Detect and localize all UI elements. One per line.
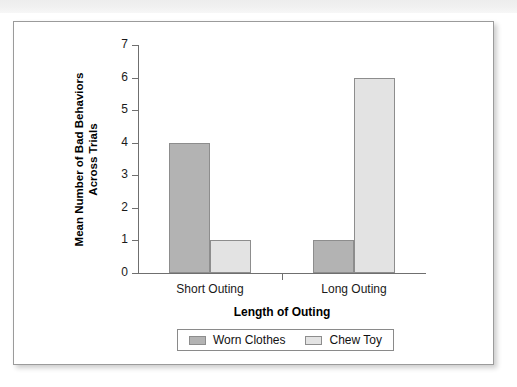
legend-item-worn-clothes: Worn Clothes — [189, 333, 285, 347]
legend-item-chew-toy: Chew Toy — [305, 333, 381, 347]
y-axis-tick-label: 5 — [121, 102, 128, 117]
bar — [169, 143, 210, 273]
y-axis-tick-mark — [132, 143, 138, 144]
y-axis-title: Mean Number of Bad Behaviors Across Tria… — [70, 45, 102, 274]
y-axis-tick: 6 — [132, 78, 138, 79]
y-axis-title-line-1: Mean Number of Bad Behaviors — [72, 73, 86, 247]
y-axis-tick: 0 — [132, 273, 138, 274]
y-axis-tick: 5 — [132, 110, 138, 111]
bar — [354, 78, 395, 273]
bar-chart-plot-area: 01234567 Short OutingLong Outing Length … — [14, 22, 493, 364]
y-axis-tick: 3 — [132, 175, 138, 176]
y-axis-title-line-2: Across Trials — [86, 123, 100, 195]
page-scan-strip — [0, 0, 517, 13]
y-axis-tick-label: 1 — [121, 232, 128, 247]
y-axis-tick: 7 — [132, 45, 138, 46]
y-axis-tick-mark — [132, 240, 138, 241]
y-axis-tick-label: 6 — [121, 70, 128, 85]
bar — [313, 240, 354, 273]
y-axis-tick-label: 4 — [121, 135, 128, 150]
y-axis-tick-mark — [132, 110, 138, 111]
bar — [210, 240, 251, 273]
legend-label-worn-clothes: Worn Clothes — [213, 333, 285, 347]
legend-swatch-worn-clothes — [189, 336, 206, 345]
y-axis-tick-mark — [132, 78, 138, 79]
y-axis-tick-label: 2 — [121, 200, 128, 215]
y-axis-tick: 2 — [132, 208, 138, 209]
y-axis-line — [138, 45, 139, 274]
legend-label-chew-toy: Chew Toy — [329, 333, 381, 347]
y-axis-tick-label: 7 — [121, 37, 128, 52]
y-axis-tick-mark — [132, 175, 138, 176]
y-axis-tick-mark — [132, 45, 138, 46]
figure-card: 01234567 Short OutingLong Outing Length … — [13, 21, 494, 365]
x-axis-title: Length of Outing — [138, 305, 426, 319]
y-axis-tick-label: 0 — [121, 265, 128, 280]
x-axis-tick — [282, 274, 283, 280]
chart-legend: Worn Clothes Chew Toy — [177, 329, 394, 351]
y-axis-tick: 4 — [132, 143, 138, 144]
legend-swatch-chew-toy — [305, 336, 322, 345]
x-axis-category-label: Long Outing — [282, 282, 426, 296]
y-axis-tick-mark — [132, 208, 138, 209]
x-axis-category-label: Short Outing — [138, 282, 282, 296]
y-axis-tick: 1 — [132, 240, 138, 241]
y-axis-tick-mark — [132, 273, 138, 274]
y-axis-tick-label: 3 — [121, 167, 128, 182]
